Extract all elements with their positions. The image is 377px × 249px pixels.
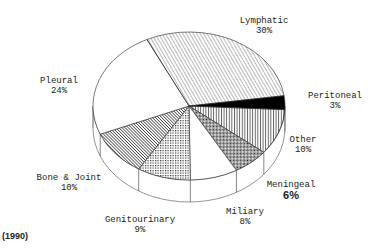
label-peritoneal: Peritoneal 3% (308, 91, 362, 111)
label-name: Bone & Joint (37, 173, 102, 183)
pie-chart (0, 0, 377, 249)
year-note: (1990) (2, 231, 28, 241)
label-pct: 9% (105, 225, 175, 235)
label-meningeal: Meningeal 6% (267, 180, 316, 200)
label-pct: 10% (289, 145, 316, 155)
label-other: Other 10% (289, 135, 316, 155)
label-pct: 8% (226, 217, 264, 227)
label-pct: 6% (267, 190, 316, 200)
label-name: Genitourinary (105, 215, 175, 225)
pie-top-face (93, 32, 285, 180)
label-pct: 10% (37, 183, 102, 193)
label-genitourinary: Genitourinary 9% (105, 215, 175, 235)
label-lymphatic: Lymphatic 30% (240, 16, 289, 36)
label-name: Miliary (226, 207, 264, 217)
label-bone-joint: Bone & Joint 10% (37, 173, 102, 193)
label-pct: 3% (308, 101, 362, 111)
label-miliary: Miliary 8% (226, 207, 264, 227)
label-name: Other (289, 135, 316, 145)
label-name: Pleural (40, 76, 78, 86)
label-pleural: Pleural 24% (40, 76, 78, 96)
label-pct: 30% (240, 26, 289, 36)
label-pct: 24% (40, 86, 78, 96)
label-name: Lymphatic (240, 16, 289, 26)
label-name: Peritoneal (308, 91, 362, 101)
